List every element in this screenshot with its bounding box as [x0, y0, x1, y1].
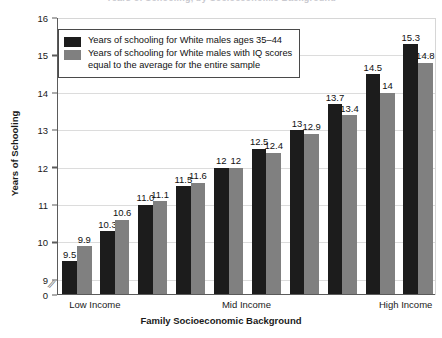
bar-value-label: 11.6: [189, 170, 207, 181]
y-axis-tick: 13: [37, 125, 57, 136]
bar: [418, 63, 433, 295]
legend-swatch-gray: [64, 50, 81, 60]
y-axis-tick-label: 16: [37, 13, 52, 24]
y-axis-tick-mark: [52, 55, 57, 56]
y-axis-tick-mark: [52, 294, 57, 295]
y-axis-tick: 15: [37, 50, 57, 61]
bar-value-label: 12: [216, 155, 227, 166]
x-axis-line: [58, 294, 435, 295]
bar-value-label: 9.5: [63, 249, 76, 260]
legend-swatch-dark: [64, 37, 81, 47]
bar-value-label: 9.9: [78, 234, 91, 245]
bar: [266, 153, 281, 295]
chart-legend: Years of schooling for White males ages …: [58, 29, 300, 78]
y-axis-tick-label: 10: [37, 237, 52, 248]
y-axis-tick-mark: [52, 167, 57, 168]
bar-value-label: 12: [231, 155, 242, 166]
bar-value-label: 14.8: [416, 50, 435, 61]
chart-title: Years of Schooling, by Socioeconomic Bac…: [0, 0, 442, 3]
bar: [366, 74, 381, 295]
y-axis-tick-label: 12: [37, 162, 52, 173]
bar-value-label: 15.3: [402, 32, 421, 43]
bar-value-label: 10.6: [113, 207, 132, 218]
y-axis-tick-label: 15: [37, 50, 52, 61]
y-axis-tick-label: 14: [37, 87, 52, 98]
bar-chart: Years of Schooling, by Socioeconomic Bac…: [0, 0, 442, 338]
bar-value-label: 11.1: [151, 189, 169, 200]
y-axis-tick: 14: [37, 87, 57, 98]
y-axis-tick-label: 11: [38, 199, 52, 210]
y-axis-title: Years of Schooling: [9, 84, 20, 224]
bar-value-label: 14.5: [364, 62, 383, 73]
bar: [176, 186, 191, 295]
x-axis-group-label: Low Income: [69, 299, 120, 310]
legend-label-dark: Years of schooling for White males ages …: [88, 35, 282, 47]
y-axis-tick: 11: [38, 199, 57, 210]
bar: [153, 201, 168, 295]
bar: [229, 168, 244, 295]
x-axis-group-label: Mid Income: [222, 299, 271, 310]
y-axis-tick-mark: [52, 17, 57, 18]
bar: [62, 261, 77, 295]
bar: [380, 93, 395, 295]
bar: [403, 44, 418, 295]
legend-label-gray: Years of schooling for White males with …: [88, 48, 292, 71]
bar: [252, 149, 267, 295]
y-axis-tick-mark: [52, 204, 57, 205]
bar: [214, 168, 229, 295]
y-axis-tick: 10: [37, 237, 57, 248]
bar: [290, 130, 305, 295]
y-axis-tick: 16: [37, 13, 57, 24]
bar-value-label: 13.7: [326, 92, 345, 103]
bar: [138, 205, 153, 295]
legend-entry-dark: Years of schooling for White males ages …: [64, 35, 292, 47]
bar: [77, 246, 92, 295]
y-axis-tick: 12: [37, 162, 57, 173]
bar-value-label: 13: [292, 118, 303, 129]
bar-value-label: 13.4: [340, 103, 359, 114]
bar-value-label: 12.4: [264, 140, 283, 151]
bar-value-label: 12.9: [302, 121, 321, 132]
bar-value-label: 14: [382, 80, 393, 91]
legend-entry-gray: Years of schooling for White males with …: [64, 48, 292, 71]
bar: [115, 220, 130, 295]
bar: [304, 134, 319, 295]
legend-label-gray-line2: equal to the average for the entire samp…: [88, 60, 260, 70]
bar: [191, 183, 206, 295]
y-axis-tick-label: 13: [37, 125, 52, 136]
y-axis-tick-mark: [52, 129, 57, 130]
x-axis-group-label: High Income: [379, 299, 432, 310]
bar: [100, 231, 115, 295]
bar: [342, 115, 357, 295]
y-axis-tick-mark: [52, 92, 57, 93]
y-axis-tick-mark: [52, 242, 57, 243]
bar: [328, 104, 343, 295]
x-axis-title: Family Socioeconomic Background: [0, 315, 442, 326]
legend-label-gray-line1: Years of schooling for White males with …: [88, 48, 292, 58]
y-axis-tick: 0: [43, 290, 57, 301]
